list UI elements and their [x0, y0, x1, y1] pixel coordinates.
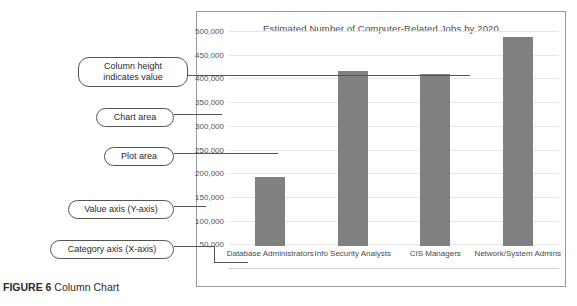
bar [503, 37, 533, 246]
leader-line-plot-area [174, 153, 278, 154]
y-axis-tick-label: 300,000 [195, 121, 224, 130]
figure-caption: FIGURE 6 Column Chart [3, 281, 119, 293]
callout-value-axis-label: Value axis (Y-axis) [84, 204, 158, 214]
callout-plot-area: Plot area [104, 147, 174, 166]
y-axis-tick-label: 500,000 [195, 27, 224, 36]
leader-line-category-axis-tail [214, 262, 248, 263]
callout-value-axis: Value axis (Y-axis) [68, 200, 174, 219]
callout-category-axis-label: Category axis (X-axis) [68, 244, 157, 254]
callout-column-height-line1: Column height [104, 61, 162, 71]
category-axis-label: Info Security Analysts [307, 246, 399, 259]
figure-caption-text: Column Chart [54, 281, 119, 293]
category-axis-label: Network/System Admins [472, 246, 564, 259]
y-axis-tick-label: 50,000 [200, 240, 224, 249]
bar-group: Info Security Analysts [312, 31, 395, 246]
callout-chart-area-label: Chart area [114, 112, 157, 122]
callout-column-height-line2: indicates value [103, 72, 163, 82]
callout-chart-area: Chart area [96, 108, 174, 127]
bar [255, 177, 285, 246]
callout-column-height: Column height indicates value [78, 57, 188, 87]
chart-area: Estimated Number of Computer-Related Job… [196, 11, 566, 287]
bar [338, 71, 368, 246]
plot-area: 50,000100,000150,000200,000250,000300,00… [229, 31, 559, 266]
bar-group: Network/System Admins [477, 31, 560, 246]
bar-group: Database Administrators [229, 31, 312, 246]
callout-category-axis: Category axis (X-axis) [50, 240, 174, 259]
category-axis-label: Database Administrators [224, 246, 316, 259]
y-axis-tick-label: 100,000 [195, 216, 224, 225]
leader-line-chart-area [174, 114, 222, 115]
leader-line-category-axis-horizontal [174, 246, 214, 247]
y-axis-tick-label: 200,000 [195, 169, 224, 178]
y-axis-tick-label: 150,000 [195, 192, 224, 201]
figure-number: FIGURE 6 [3, 281, 51, 293]
y-axis-tick-label: 450,000 [195, 50, 224, 59]
callout-plot-area-label: Plot area [121, 151, 157, 161]
category-axis-label: CIS Managers [389, 246, 481, 259]
leader-line-column-height [188, 75, 470, 76]
leader-line-category-axis-vertical [214, 246, 215, 262]
leader-line-value-axis [174, 206, 206, 207]
bar [420, 74, 450, 246]
category-axis-line [229, 268, 559, 269]
bar-series: Database AdministratorsInfo Security Ana… [229, 31, 559, 246]
y-axis-tick-label: 350,000 [195, 98, 224, 107]
bar-group: CIS Managers [394, 31, 477, 246]
